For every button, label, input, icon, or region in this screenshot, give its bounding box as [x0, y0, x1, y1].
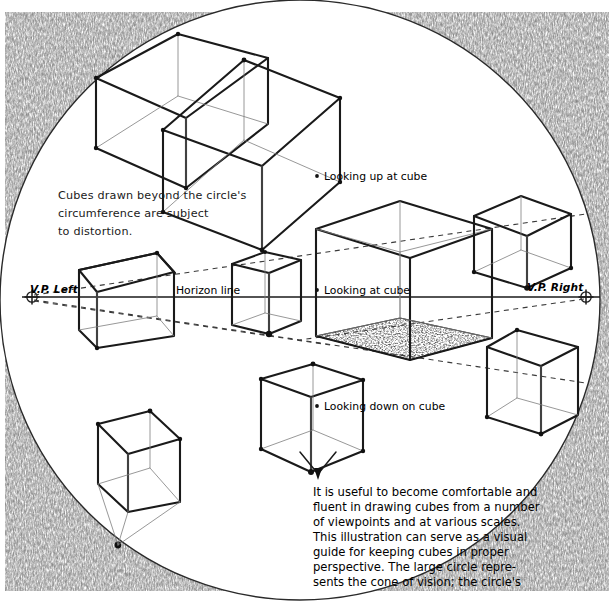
bullet-dot-icon	[315, 288, 319, 292]
annotation-looking-at: Looking at cube	[315, 284, 410, 297]
distortion-note-line2: circumference are subject	[58, 207, 209, 220]
body-line-4: guide for keeping cubes in proper	[313, 545, 509, 559]
looking-down-label: Looking down on cube	[324, 400, 445, 413]
vp-left-label: V.P. Left	[30, 283, 79, 295]
body-line-3: This illustration can serve as a visual	[312, 530, 527, 544]
distortion-note-line3: to distortion.	[58, 225, 132, 238]
cube-center-lower	[259, 362, 365, 475]
convergence-guides	[34, 214, 586, 383]
cube-right-lower	[485, 328, 578, 437]
looking-at-label: Looking at cube	[324, 284, 410, 297]
looking-up-label: Looking up at cube	[324, 170, 427, 183]
body-text-leader-arrow	[300, 452, 336, 480]
bullet-dot-icon	[315, 404, 319, 408]
body-line-6: sents the cone of vision; the circle's	[313, 575, 521, 589]
cube-top-left-near	[161, 58, 342, 253]
cube-right-upper	[472, 196, 573, 291]
body-line-5: perspective. The large circle repre-	[313, 560, 516, 574]
bullet-dot-icon	[315, 174, 319, 178]
annotation-looking-up: Looking up at cube	[315, 170, 427, 183]
distortion-note-line1: Cubes drawn beyond the circle's	[58, 189, 247, 202]
label-vp-left: V.P. Left	[30, 283, 79, 295]
body-line-0: It is useful to become comfortable and	[313, 485, 537, 499]
label-vp-right: V.P. Right	[527, 281, 584, 293]
illustration-canvas: .ink { fill:none; stroke:#1a1a1a; stroke…	[0, 0, 614, 603]
body-paragraph: It is useful to become comfortable and f…	[312, 485, 540, 589]
vp-right-label: V.P. Right	[527, 281, 584, 293]
horizon-line-label: Horizon line	[176, 284, 241, 297]
body-line-1: fluent in drawing cubes from a number	[313, 500, 540, 514]
cube-mid-left	[79, 251, 175, 350]
label-horizon-line: Horizon line	[176, 284, 241, 297]
cube-bottom-left	[96, 409, 182, 549]
body-line-2: of viewpoints and at various scales.	[313, 515, 520, 529]
cube-center-large	[316, 201, 492, 360]
perspective-drawing: .ink { fill:none; stroke:#1a1a1a; stroke…	[0, 0, 614, 603]
cube-horizon-small	[232, 250, 301, 337]
annotation-looking-down: Looking down on cube	[315, 400, 445, 413]
annotation-distortion-note: Cubes drawn beyond the circle's circumfe…	[58, 189, 247, 238]
